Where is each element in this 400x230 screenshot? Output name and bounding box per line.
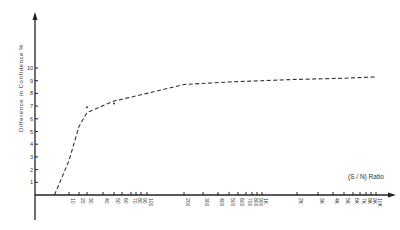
y-tick-label: 8: [30, 90, 33, 96]
x-tick-label: 500: [230, 198, 236, 207]
data-point-markers: [86, 103, 115, 109]
x-tick-label: 50: [115, 198, 121, 204]
y-tick-label: 3: [30, 154, 33, 160]
data-point-marker: [86, 106, 88, 108]
y-tick-label: 10: [27, 65, 33, 71]
x-tick-label: 7K: [361, 198, 367, 205]
y-tick-label: 9: [30, 78, 33, 84]
x-tick-label: 400: [219, 198, 225, 207]
y-axis-label: Difference in Confidence %: [18, 44, 24, 132]
x-tick-label: 5K: [345, 198, 351, 205]
x-axis-label: (S / N) Ratio: [348, 173, 384, 181]
x-tick-label: 10K: [377, 198, 383, 208]
y-ticks: 12345678910: [27, 65, 38, 185]
y-tick-label: 6: [30, 116, 33, 122]
y-tick-label: 2: [30, 167, 33, 173]
y-tick-label: 1: [30, 179, 33, 185]
x-axis-arrow-icon: [388, 193, 396, 198]
x-tick-label: 1K: [263, 198, 269, 205]
x-tick-label: 100: [148, 198, 154, 207]
y-tick-label: 7: [30, 103, 33, 109]
y-tick-label: 4: [30, 141, 33, 147]
y-axis-arrow-icon: [33, 12, 38, 20]
x-tick-label: 200: [185, 198, 191, 207]
y-tick-label: 5: [30, 129, 33, 135]
x-tick-label: 20: [80, 198, 86, 204]
x-tick-label: 30: [88, 198, 94, 204]
x-tick-label: 60: [123, 198, 129, 204]
x-tick-label: 40: [104, 198, 110, 204]
data-point-marker: [113, 103, 115, 105]
data-curve: [55, 77, 377, 195]
x-tick-label: 4K: [334, 198, 340, 205]
x-tick-label: 10: [70, 198, 76, 204]
x-tick-label: 2K: [298, 198, 304, 205]
x-tick-label: 300: [204, 198, 210, 207]
x-tick-label: 3K: [319, 198, 325, 205]
x-tick-label: 700: [247, 198, 253, 207]
chart: 12345678910 1020304050607080901002003004…: [0, 0, 400, 230]
x-tick-label: 600: [239, 198, 245, 207]
x-ticks: 1020304050607080901002003004005006007008…: [69, 192, 383, 208]
x-tick-label: 6K: [354, 198, 360, 205]
x-tick-label: 90: [142, 198, 148, 204]
